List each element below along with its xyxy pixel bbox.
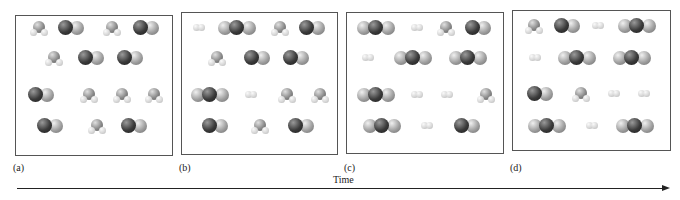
hydrogen-atom [262,127,269,134]
carbon-atom [202,87,217,102]
hydrogen-atom [282,29,289,36]
hydrogen-atom [103,29,110,36]
hydrogen-atom [572,95,579,102]
panel-a [15,15,173,156]
hydrogen-atom [278,96,285,103]
oxygen-atom [640,119,654,133]
oxygen-atom [242,21,256,35]
carbon-atom [37,118,52,133]
hydrogen-atom [437,29,444,36]
time-axis-label: Time [333,174,354,185]
carbon-atom [28,87,43,102]
panel-label: (d) [510,162,522,173]
oxygen-atom [637,51,651,65]
hydrogen-atom [477,96,484,103]
hydrogen-atom [41,29,48,36]
carbon-atom [133,20,148,35]
carbon-atom [627,118,642,133]
hydrogen-atom [271,29,278,36]
oxygen-atom [215,88,229,102]
oxygen-atom [418,51,432,65]
carbon-atom [624,50,639,65]
hydrogen-atom [597,22,604,29]
hydrogen-atom [534,54,541,61]
hydrogen-atom [198,24,205,31]
oxygen-atom [552,119,566,133]
hydrogen-atom [591,122,598,129]
carbon-atom [460,50,475,65]
hydrogen-atom [643,90,650,97]
carbon-atom [368,87,383,102]
hydrogen-atom [208,59,215,66]
carbon-atom [465,20,480,35]
oxygen-atom [387,119,401,133]
hydrogen-atom [30,29,37,36]
hydrogen-atom [488,96,495,103]
carbon-atom [121,118,136,133]
carbon-atom [288,118,303,133]
carbon-atom [569,50,584,65]
hydrogen-atom [289,96,296,103]
panel-label: (c) [344,162,355,173]
carbon-atom [629,18,644,33]
hydrogen-atom [426,122,433,129]
carbon-atom [539,118,554,133]
carbon-atom [527,86,542,101]
carbon-atom [368,20,383,35]
hydrogen-atom [250,91,257,98]
hydrogen-atom [88,127,95,134]
carbon-atom [117,50,132,65]
hydrogen-atom [114,29,121,36]
carbon-atom [299,20,314,35]
carbon-atom [78,50,93,65]
oxygen-atom [642,19,656,33]
hydrogen-atom [416,24,423,31]
hydrogen-atom [80,96,87,103]
hydrogen-atom [613,90,620,97]
carbon-atom [229,20,244,35]
hydrogen-atom [446,91,453,98]
panel-label: (b) [179,162,191,173]
hydrogen-atom [45,59,52,66]
time-arrow-head-icon [662,185,670,191]
panel-label: (a) [13,162,24,173]
hydrogen-atom [525,27,532,34]
carbon-atom [405,50,420,65]
carbon-atom [454,118,469,133]
hydrogen-atom [99,127,106,134]
carbon-atom [374,118,389,133]
time-arrow-line [17,188,663,189]
carbon-atom [554,18,569,33]
hydrogen-atom [448,29,455,36]
oxygen-atom [473,51,487,65]
hydrogen-atom [583,95,590,102]
hydrogen-atom [536,27,543,34]
hydrogen-atom [219,59,226,66]
hydrogen-atom [416,91,423,98]
carbon-atom [58,20,73,35]
hydrogen-atom [56,59,63,66]
oxygen-atom [582,51,596,65]
carbon-atom [244,50,259,65]
oxygen-atom [381,21,395,35]
hydrogen-atom [124,96,131,103]
hydrogen-atom [156,96,163,103]
hydrogen-atom [113,96,120,103]
hydrogen-atom [145,96,152,103]
hydrogen-atom [91,96,98,103]
hydrogen-atom [311,96,318,103]
hydrogen-atom [251,127,258,134]
carbon-atom [283,50,298,65]
carbon-atom [202,118,217,133]
hydrogen-atom [322,96,329,103]
oxygen-atom [381,88,395,102]
hydrogen-atom [367,54,374,61]
